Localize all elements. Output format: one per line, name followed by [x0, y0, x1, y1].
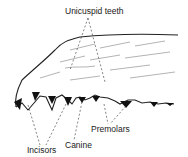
label-incisors: Incisors	[27, 145, 56, 155]
label-unicuspid-teeth: Unicuspid teeth	[65, 6, 124, 16]
label-canine: Canine	[65, 140, 92, 150]
label-premolars: Premolars	[91, 124, 130, 134]
